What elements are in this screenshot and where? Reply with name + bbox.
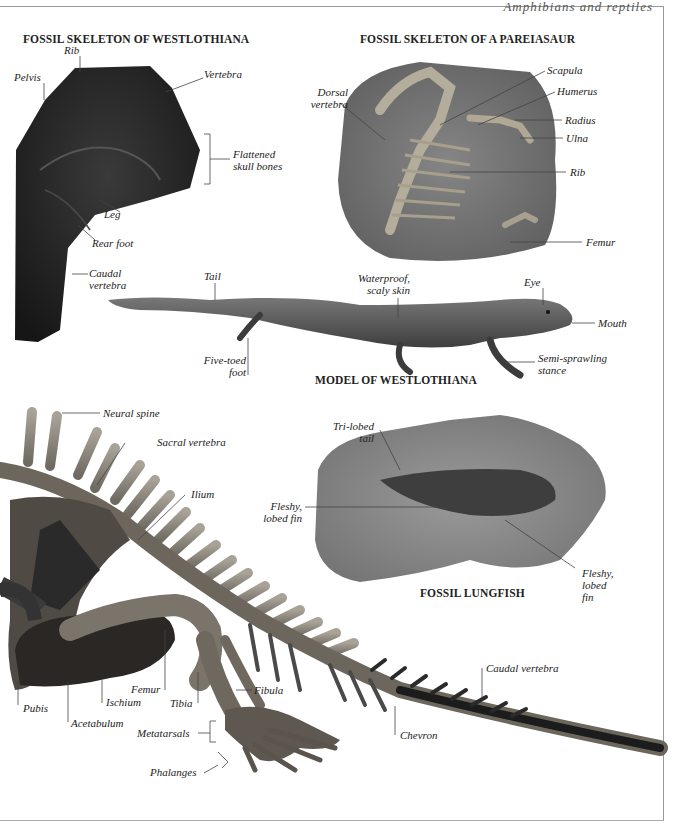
- label-femur: Femur: [131, 683, 160, 695]
- label-line-3: fin: [582, 591, 594, 603]
- label-dorsal-vertebra: Dorsal vertebra: [300, 86, 348, 110]
- pareiasaur-fossil-image: [338, 62, 556, 261]
- label-ulna: Ulna: [566, 132, 588, 144]
- label-line-2: skull bones: [233, 160, 282, 172]
- label-line-1: Tri-lobed: [333, 420, 374, 432]
- label-eye: Eye: [524, 276, 540, 288]
- label-vertebra: Vertebra: [204, 68, 242, 80]
- label-neural-spine: Neural spine: [103, 407, 160, 419]
- label-semi-sprawling-stance: Semi-sprawling stance: [538, 352, 607, 376]
- label-acetabulum: Acetabulum: [71, 717, 124, 729]
- label-line-2: lobed: [582, 579, 606, 591]
- label-line-2: vertebra: [89, 279, 126, 291]
- label-line-2: scaly skin: [367, 284, 410, 296]
- label-fibula: Fibula: [254, 684, 283, 696]
- label-phalanges: Phalanges: [150, 766, 196, 778]
- label-fleshy-lobed-fin-left: Fleshy, lobed fin: [250, 500, 302, 524]
- label-tri-lobed-tail: Tri-lobed tail: [322, 420, 374, 444]
- heading-westlothiana-model: MODEL OF WESTLOTHIANA: [315, 374, 477, 386]
- label-pelvis: Pelvis: [14, 71, 41, 83]
- label-line-1: Caudal: [89, 267, 121, 279]
- label-rib-pareiasaur: Rib: [570, 166, 585, 178]
- label-line-2: tail: [359, 432, 374, 444]
- label-line-2: vertebra: [311, 98, 348, 110]
- label-line-1: Dorsal: [317, 86, 348, 98]
- label-rib: Rib: [64, 44, 79, 56]
- heading-westlothiana-fossil: FOSSIL SKELETON OF WESTLOTHIANA: [23, 33, 249, 45]
- label-line-1: Fleshy,: [271, 500, 302, 512]
- label-ischium: Ischium: [106, 696, 141, 708]
- label-tail: Tail: [204, 270, 221, 282]
- label-femur-pareiasaur: Femur: [586, 236, 615, 248]
- label-fleshy-lobed-fin-right: Fleshy, lobed fin: [582, 567, 613, 603]
- label-ilium: Ilium: [191, 488, 214, 500]
- label-five-toed-foot: Five-toed foot: [190, 354, 246, 378]
- label-line-1: Flattened: [233, 148, 275, 160]
- label-line-1: Five-toed: [204, 354, 246, 366]
- label-caudal-vertebra: Caudal vertebra: [486, 662, 558, 674]
- label-pubis: Pubis: [23, 702, 48, 714]
- label-line-2: lobed fin: [263, 512, 302, 524]
- label-humerus: Humerus: [557, 85, 597, 97]
- label-line-1: Semi-sprawling: [538, 352, 607, 364]
- label-chevron: Chevron: [400, 729, 437, 741]
- label-rear-foot: Rear foot: [92, 237, 133, 249]
- label-line-1: Fleshy,: [582, 567, 613, 579]
- label-caudal-vertebra-fossil: Caudal vertebra: [89, 267, 126, 291]
- label-line-2: stance: [538, 364, 566, 376]
- label-scapula: Scapula: [547, 64, 582, 76]
- label-mouth: Mouth: [598, 317, 627, 329]
- label-leg: Leg: [104, 208, 121, 220]
- label-metatarsals: Metatarsals: [137, 727, 190, 739]
- label-flattened-skull-bones: Flattened skull bones: [233, 148, 282, 172]
- label-waterproof-scaly-skin: Waterproof, scaly skin: [330, 272, 410, 296]
- heading-pareiasaur-fossil: FOSSIL SKELETON OF A PAREIASAUR: [360, 33, 575, 45]
- label-line-1: Waterproof,: [358, 272, 410, 284]
- label-radius: Radius: [565, 114, 596, 126]
- label-tibia: Tibia: [170, 697, 193, 709]
- label-sacral-vertebra: Sacral vertebra: [157, 436, 226, 448]
- label-line-2: foot: [229, 366, 246, 378]
- westlothiana-model-image: [108, 298, 572, 376]
- heading-lungfish-fossil: FOSSIL LUNGFISH: [420, 587, 525, 599]
